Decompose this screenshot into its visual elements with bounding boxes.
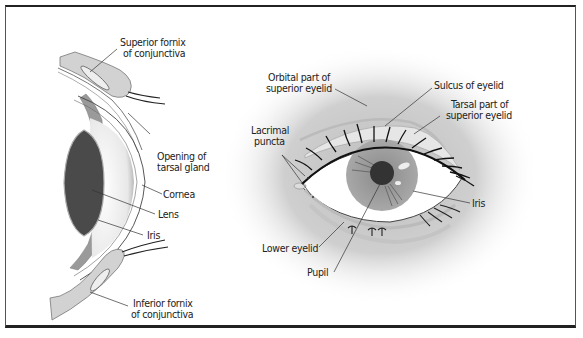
label-superior-fornix-2: of conjunctiva: [123, 47, 185, 59]
label-orbital-part-2: superior eyelid: [266, 82, 332, 94]
label-inferior-fornix-2: of conjunctiva: [131, 308, 193, 320]
label-lower-eyelid: Lower eyelid: [262, 242, 318, 254]
label-iris-front: Iris: [472, 197, 485, 209]
label-lacrimal-puncta-2: puncta: [254, 135, 285, 147]
label-opening-tarsal-2: tarsal gland: [157, 161, 210, 173]
label-pupil: Pupil: [307, 266, 328, 278]
eye-anatomy-diagram: Superior fornix of conjunctiva Opening o…: [0, 0, 583, 338]
pupil: [370, 161, 394, 185]
sagittal-section-panel: Superior fornix of conjunctiva Opening o…: [50, 36, 210, 320]
label-sulcus: Sulcus of eyelid: [434, 79, 504, 91]
frontal-view-panel: Orbital part of superior eyelid Sulcus o…: [220, 45, 540, 305]
label-lens: Lens: [158, 208, 179, 220]
label-iris-section: Iris: [147, 229, 160, 241]
label-tarsal-part-2: superior eyelid: [446, 109, 512, 121]
label-cornea: Cornea: [163, 188, 195, 200]
